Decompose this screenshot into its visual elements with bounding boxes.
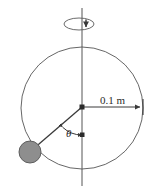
rotation-direction-indicator	[64, 18, 94, 30]
pendulum-string	[32, 107, 82, 150]
diagram-canvas: 0.1 m θ	[0, 0, 149, 190]
radius-dimension-label: 0.1 m	[100, 94, 126, 106]
angle-axis-tick	[80, 133, 85, 138]
angle-theta-label: θ	[66, 127, 72, 139]
physics-diagram-figure: 0.1 m θ	[0, 0, 149, 190]
pivot-point-marker	[80, 105, 85, 110]
pendulum-bob	[19, 141, 41, 163]
